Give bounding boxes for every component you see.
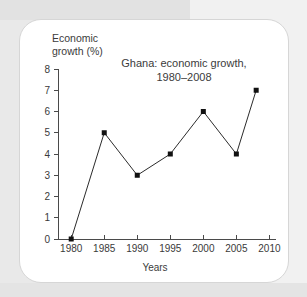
series-marker-group: [69, 88, 259, 242]
data-point: [201, 109, 206, 114]
chart-svg: 012345678 1980198519901995200020052010: [20, 20, 290, 284]
y-tick-label: 3: [44, 170, 50, 181]
x-tick-group: [71, 235, 269, 239]
y-tick-group: [54, 69, 58, 239]
x-tick-label: 1980: [60, 243, 83, 254]
y-tick-label-group: 012345678: [44, 64, 50, 245]
x-tick-label: 2005: [225, 243, 248, 254]
background-band-bottom: [0, 283, 307, 297]
y-tick-label: 2: [44, 191, 50, 202]
background-band-top-left: [0, 0, 190, 20]
y-tick-label: 4: [44, 149, 50, 160]
x-tick-label-group: 1980198519901995200020052010: [60, 243, 281, 254]
y-tick-label: 1: [44, 212, 50, 223]
data-point: [69, 237, 74, 242]
x-tick-label: 1995: [159, 243, 182, 254]
data-point: [135, 173, 140, 178]
x-tick-label: 2000: [192, 243, 215, 254]
y-tick-label: 6: [44, 106, 50, 117]
y-tick-label: 7: [44, 85, 50, 96]
data-point: [102, 130, 107, 135]
x-tick-label: 1985: [93, 243, 116, 254]
x-tick-label: 1990: [126, 243, 149, 254]
data-point: [168, 152, 173, 157]
y-axis-group: 012345678: [44, 64, 58, 245]
figure-card: Economic growth (%) Ghana: economic grow…: [19, 19, 289, 283]
data-point: [254, 88, 259, 93]
plot-area: Economic growth (%) Ghana: economic grow…: [20, 20, 288, 282]
y-tick-label: 0: [44, 234, 50, 245]
page-root: Economic growth (%) Ghana: economic grow…: [0, 0, 307, 297]
data-series-group: [69, 88, 259, 242]
x-axis-label: Years: [20, 262, 290, 273]
series-line: [71, 90, 256, 239]
x-axis-group: 1980198519901995200020052010: [58, 235, 281, 254]
y-tick-label: 5: [44, 127, 50, 138]
y-tick-label: 8: [44, 64, 50, 75]
x-tick-label: 2010: [258, 243, 281, 254]
data-point: [234, 152, 239, 157]
